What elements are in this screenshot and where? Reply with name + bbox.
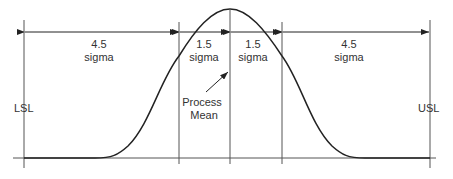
segment-2-value: 1.5 [196, 38, 211, 50]
process-mean-label-line2: Mean [190, 109, 218, 121]
normal-curve [24, 9, 430, 158]
segment-4-value: 4.5 [341, 38, 356, 50]
segment-3-value: 1.5 [245, 38, 260, 50]
segment-4-unit: sigma [334, 51, 364, 63]
segment-1-unit: sigma [84, 51, 114, 63]
sigma-diagram: 4.5 sigma 1.5 sigma 1.5 sigma 4.5 sigma … [0, 0, 453, 179]
segment-2-unit: sigma [189, 51, 219, 63]
process-mean-label-line1: Process [182, 96, 222, 108]
segment-1-value: 4.5 [91, 38, 106, 50]
lsl-label: LSL [14, 102, 34, 114]
segment-3-unit: sigma [238, 51, 268, 63]
usl-label: USL [418, 102, 439, 114]
process-mean-pointer [206, 72, 228, 92]
